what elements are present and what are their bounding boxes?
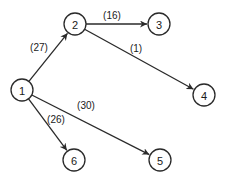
node-label: 6: [71, 155, 77, 167]
edge-weight-label: (16): [103, 10, 121, 21]
node-5: 5: [149, 149, 171, 171]
graph-diagram: (27)(16)(1)(30)(26) 123456: [0, 0, 227, 183]
edge-2-4: [85, 29, 194, 89]
node-2: 2: [64, 13, 86, 35]
node-label: 3: [156, 19, 162, 31]
edges-layer: [29, 24, 194, 155]
arrow-line: [29, 99, 67, 151]
node-3: 3: [148, 13, 170, 35]
edge-weight-label: (1): [130, 43, 142, 54]
node-1: 1: [11, 79, 33, 101]
node-label: 5: [157, 155, 163, 167]
node-label: 4: [201, 90, 207, 102]
arrow-line: [85, 29, 194, 89]
edge-weight-label: (30): [77, 100, 95, 111]
edge-1-6: [29, 99, 67, 151]
nodes-layer: 123456: [11, 13, 215, 171]
edge-weight-label: (26): [47, 114, 65, 125]
edge-weight-label: (27): [30, 42, 48, 53]
node-label: 2: [72, 19, 78, 31]
node-4: 4: [193, 84, 215, 106]
node-6: 6: [63, 149, 85, 171]
node-label: 1: [19, 85, 25, 97]
